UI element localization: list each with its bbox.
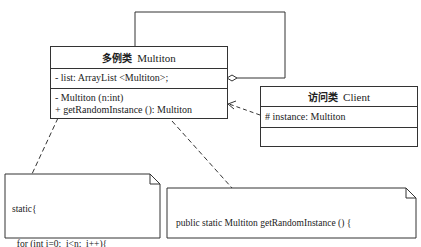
client-operations [261, 128, 417, 146]
client-class-name: Client [343, 91, 370, 103]
client-stereotype: 访问类 [308, 89, 338, 104]
note-line: for (int i=0; i<n; i++){ [12, 239, 150, 247]
note-line: static{ [12, 204, 150, 216]
multiton-class-name: Multiton [137, 52, 176, 64]
multiton-attributes: - list: ArrayList <Multiton>; [51, 69, 227, 89]
note-method-block: public static Multiton getRandomInstance… [170, 191, 406, 237]
operation-getRandomInstance: + getRandomInstance (): Multiton [55, 104, 223, 116]
attribute-list: - list: ArrayList <Multiton>; [55, 72, 223, 84]
multiton-class-header: 多例类 Multiton [51, 47, 227, 69]
multiton-class-box[interactable]: 多例类 Multiton - list: ArrayList <Multiton… [50, 46, 228, 119]
dependency-line [229, 104, 260, 115]
note-line: public static Multiton getRandomInstance… [176, 218, 400, 230]
client-class-box[interactable]: 访问类 Client # instance: Multiton [260, 86, 418, 147]
client-class-header: 访问类 Client [261, 87, 417, 107]
note-static-block: static{ for (int i=0; i<n; i++){ list.ad… [6, 177, 156, 237]
client-attributes: # instance: Multiton [261, 107, 417, 128]
note-link-method [172, 121, 232, 188]
attribute-instance: # instance: Multiton [265, 111, 413, 123]
multiton-stereotype: 多例类 [102, 50, 132, 65]
note-link-static [32, 118, 58, 174]
operation-constructor: - Multiton (n:int) [55, 92, 223, 104]
aggregation-diamond-icon [227, 75, 237, 81]
multiton-operations: - Multiton (n:int) + getRandomInstance (… [51, 89, 227, 117]
